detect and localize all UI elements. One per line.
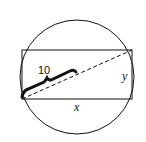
label-height-y: y bbox=[121, 69, 128, 83]
label-diagonal-length: 10 bbox=[38, 64, 50, 76]
circumscribed-circle bbox=[20, 20, 134, 134]
geometry-figure: 10 x y bbox=[0, 0, 146, 142]
label-width-x: x bbox=[73, 100, 80, 114]
diagram-canvas: 10 x y bbox=[0, 0, 146, 142]
